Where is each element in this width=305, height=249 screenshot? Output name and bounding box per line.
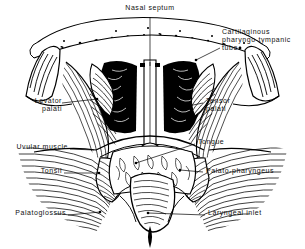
label-palatoglossus: Palatoglossus bbox=[4, 209, 66, 217]
anatomical-figure: Nasal septum Cartilaginous pharyngo-tymp… bbox=[0, 0, 305, 249]
label-uvular-muscle: Uvular muscle bbox=[6, 143, 68, 151]
label-palato-pharyngeus: Palato-pharyngeus bbox=[206, 167, 302, 175]
label-cartilaginous-pharyngo-tympanic-tube: Cartilaginous pharyngo-tympanic tube bbox=[222, 28, 304, 53]
label-tongue: Tongue bbox=[198, 138, 248, 146]
label-laryngeal-inlet: Laryngeal inlet bbox=[208, 209, 298, 217]
label-tonsil: Tonsil bbox=[20, 167, 62, 175]
label-nasal-septum: Nasal septum bbox=[110, 4, 190, 12]
label-tensor-palati: Tensor palati bbox=[206, 97, 266, 113]
label-levator-palati: Levator palati bbox=[8, 97, 62, 113]
